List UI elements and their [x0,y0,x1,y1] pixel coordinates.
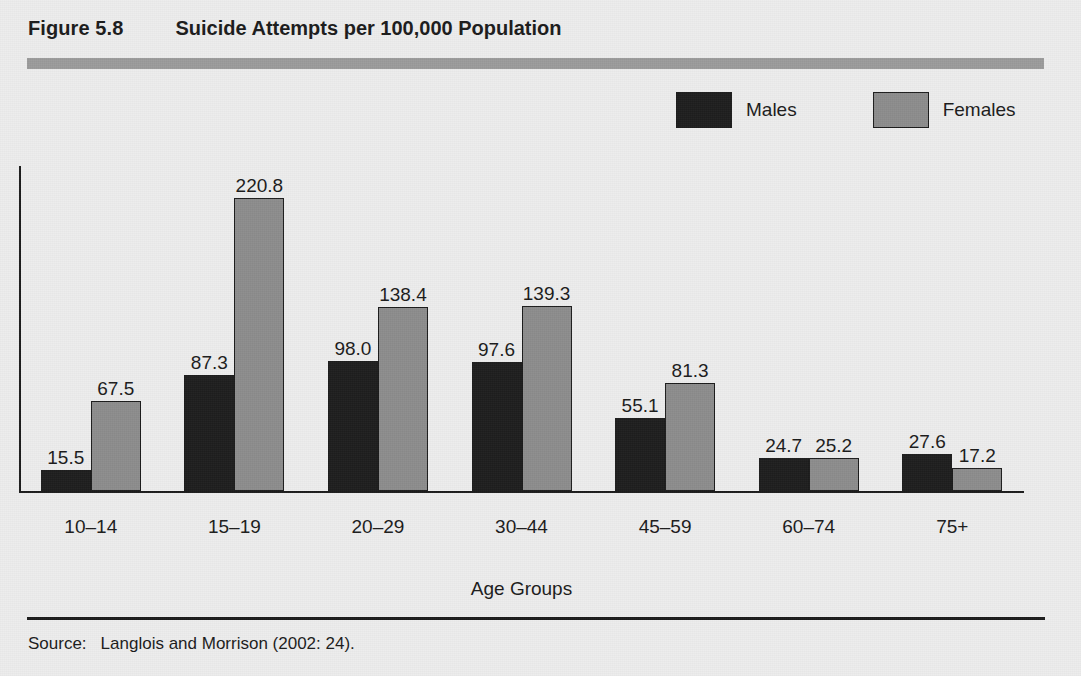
bar-rect[interactable] [759,458,809,491]
x-axis-tick-label: 60–74 [737,516,881,538]
bar-value-label: 138.4 [379,285,427,304]
bar-rect[interactable] [952,468,1002,491]
bar-rect[interactable] [472,362,522,491]
source-note: Source: Langlois and Morrison (2002: 24)… [28,634,355,654]
bar-group: 24.725.2 [737,166,881,491]
bar-value-label: 98.0 [334,339,371,358]
bar-rect[interactable] [234,198,284,491]
bar-males[interactable]: 55.1 [615,418,665,491]
x-axis-tick-label: 10–14 [19,516,163,538]
bar-females[interactable]: 138.4 [378,307,428,491]
bar-rect[interactable] [809,458,859,491]
x-axis-tick-label: 45–59 [593,516,737,538]
bar-groups-container: 15.567.587.3220.898.0138.497.6139.355.18… [19,166,1024,491]
bar-value-label: 24.7 [765,436,802,455]
bar-value-label: 55.1 [622,396,659,415]
bar-females[interactable]: 81.3 [665,383,715,491]
bar-value-label: 17.2 [959,446,996,465]
bar-rect[interactable] [91,401,141,491]
bar-rect[interactable] [378,307,428,491]
bar-value-label: 139.3 [523,284,571,303]
bar-males[interactable]: 24.7 [759,458,809,491]
bar-rect[interactable] [184,375,234,491]
bar-value-label: 81.3 [672,361,709,380]
bar-value-label: 25.2 [815,436,852,455]
x-axis-line [19,491,1024,493]
bar-females[interactable]: 25.2 [809,458,859,491]
bar-males[interactable]: 98.0 [328,361,378,491]
bar-group: 97.6139.3 [450,166,594,491]
bar-rect[interactable] [328,361,378,491]
bar-value-label: 97.6 [478,340,515,359]
source-label: Source: [28,634,87,654]
bar-value-label: 15.5 [47,448,84,467]
bar-group: 55.181.3 [593,166,737,491]
bar-rect[interactable] [522,306,572,491]
x-axis-tick-label: 75+ [880,516,1024,538]
bar-males[interactable]: 87.3 [184,375,234,491]
bar-group: 87.3220.8 [163,166,307,491]
bar-group: 15.567.5 [19,166,163,491]
bar-males[interactable]: 97.6 [472,362,522,491]
bar-value-label: 87.3 [191,353,228,372]
bar-females[interactable]: 67.5 [91,401,141,491]
figure-page: Figure 5.8 Suicide Attempts per 100,000 … [0,0,1081,676]
bar-males[interactable]: 27.6 [902,454,952,491]
bar-males[interactable]: 15.5 [41,470,91,491]
bar-rect[interactable] [615,418,665,491]
bar-group: 98.0138.4 [306,166,450,491]
bar-value-label: 27.6 [909,432,946,451]
x-axis-tick-label: 15–19 [163,516,307,538]
bar-value-label: 220.8 [236,176,284,195]
x-axis-tick-label: 30–44 [450,516,594,538]
bar-rect[interactable] [41,470,91,491]
bar-rect[interactable] [665,383,715,491]
bar-females[interactable]: 17.2 [952,468,1002,491]
x-axis-category-labels: 10–1415–1920–2930–4445–5960–7475+ [19,516,1024,538]
x-axis-title: Age Groups [19,578,1024,600]
bar-females[interactable]: 220.8 [234,198,284,491]
x-axis-tick-label: 20–29 [306,516,450,538]
bar-females[interactable]: 139.3 [522,306,572,491]
bar-rect[interactable] [902,454,952,491]
bar-value-label: 67.5 [97,379,134,398]
bar-group: 27.617.2 [880,166,1024,491]
bar-chart-plot: 15.567.587.3220.898.0138.497.6139.355.18… [0,0,1081,676]
footer-divider-rule [27,617,1045,620]
source-text: Langlois and Morrison (2002: 24). [101,634,355,654]
